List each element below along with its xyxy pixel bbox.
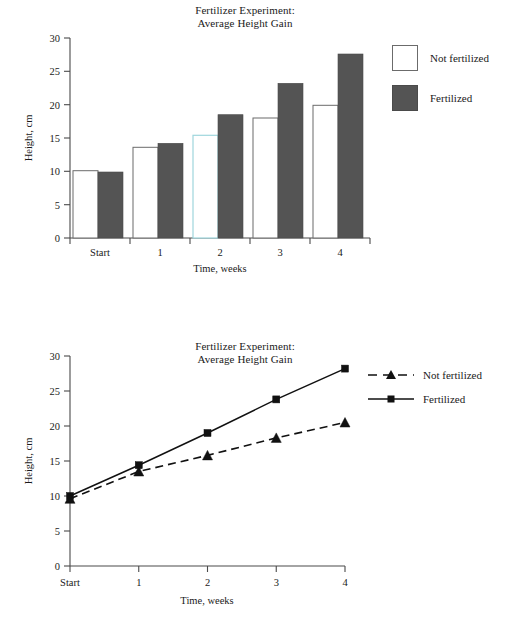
bar-not-fertilized-week4 (313, 105, 338, 238)
bar-ytick-label-25: 25 (50, 66, 61, 77)
legend-item-fertilized: Fertilized (392, 85, 489, 111)
bar-xtick-label-start: Start (90, 247, 110, 258)
bar-chart-title-line1: Fertilizer Experiment: (130, 4, 360, 17)
line-chart-title-line1: Fertilizer Experiment: (130, 340, 360, 353)
legend-label-fertilized-line: Fertilized (423, 393, 465, 405)
line-ytick-label-0: 0 (55, 561, 60, 572)
bar-fertilized-start (98, 172, 123, 238)
legend-label-not-fertilized-line: Not fertilized (423, 369, 482, 381)
bar-fertilized-week4 (338, 54, 363, 238)
bar-ytick-label-10: 10 (50, 166, 61, 177)
legend-item-not-fertilized-line: Not fertilized (368, 368, 482, 382)
line-ytick-label-20: 20 (50, 421, 61, 432)
legend-item-fertilized-line: Fertilized (368, 392, 482, 406)
bar-xtick-label-1: 1 (157, 247, 162, 258)
bar-chart-title-line2: Average Height Gain (130, 17, 360, 30)
bar-not-fertilized-week3 (253, 118, 278, 238)
solid-line-square-marker-icon (368, 392, 414, 406)
bar-ytick-label-20: 20 (50, 100, 61, 111)
legend-item-not-fertilized: Not fertilized (392, 45, 489, 71)
bar-not-fertilized-week1 (133, 147, 158, 238)
bar-not-fertilized-week2 (193, 135, 218, 238)
line-xtick-label-4: 4 (342, 577, 348, 588)
bar-xtick-label-4: 4 (337, 247, 343, 258)
line-ytick-label-15: 15 (50, 456, 61, 467)
line-ytick-label-25: 25 (50, 386, 61, 397)
filled-square-swatch-icon (392, 85, 418, 111)
bar-fertilized-week1 (158, 143, 183, 238)
bar-x-axis-title: Time, weeks (193, 263, 246, 274)
bar-fertilized-week2 (218, 115, 243, 238)
legend-label-fertilized: Fertilized (430, 92, 472, 104)
line-chart-legend: Not fertilized Fertilized (368, 368, 482, 420)
bar-xtick-label-2: 2 (217, 247, 222, 258)
bar-xtick-label-3: 3 (277, 247, 282, 258)
line-xtick-label-start: Start (60, 577, 80, 588)
bar-y-axis-title: Height, cm (23, 115, 34, 162)
line-ytick-label-10: 10 (50, 491, 61, 502)
bar-ytick-label-5: 5 (55, 200, 60, 211)
legend-label-not-fertilized: Not fertilized (430, 52, 489, 64)
line-xtick-label-3: 3 (274, 577, 279, 588)
line-y-axis-title: Height, cm (23, 438, 34, 485)
line-xtick-label-1: 1 (136, 577, 141, 588)
dashed-line-triangle-marker-icon (368, 368, 414, 382)
line-x-ticks (70, 566, 345, 572)
bar-x-ticks (70, 238, 370, 244)
bar-chart-legend: Not fertilized Fertilized (392, 45, 489, 125)
bar-ytick-label-15: 15 (50, 133, 61, 144)
bar-chart-figure: Fertilizer Experiment: Average Height Ga… (0, 0, 510, 320)
line-xtick-label-2: 2 (205, 577, 210, 588)
bar-y-ticks (64, 38, 70, 238)
line-chart-title-line2: Average Height Gain (130, 353, 360, 366)
line-y-ticks (64, 356, 70, 566)
line-ytick-label-5: 5 (55, 526, 60, 537)
line-chart-title: Fertilizer Experiment: Average Height Ga… (130, 340, 360, 366)
bar-ytick-label-30: 30 (50, 33, 61, 44)
bar-not-fertilized-start (73, 171, 98, 238)
line-chart-figure: Fertilizer Experiment: Average Height Ga… (0, 320, 510, 623)
bar-chart-title: Fertilizer Experiment: Average Height Ga… (130, 4, 360, 30)
bar-ytick-label-0: 0 (55, 233, 60, 244)
line-x-axis-title: Time, weeks (180, 595, 233, 606)
line-ytick-label-30: 30 (50, 351, 61, 362)
open-square-swatch-icon (392, 45, 418, 71)
bar-fertilized-week3 (278, 83, 303, 238)
